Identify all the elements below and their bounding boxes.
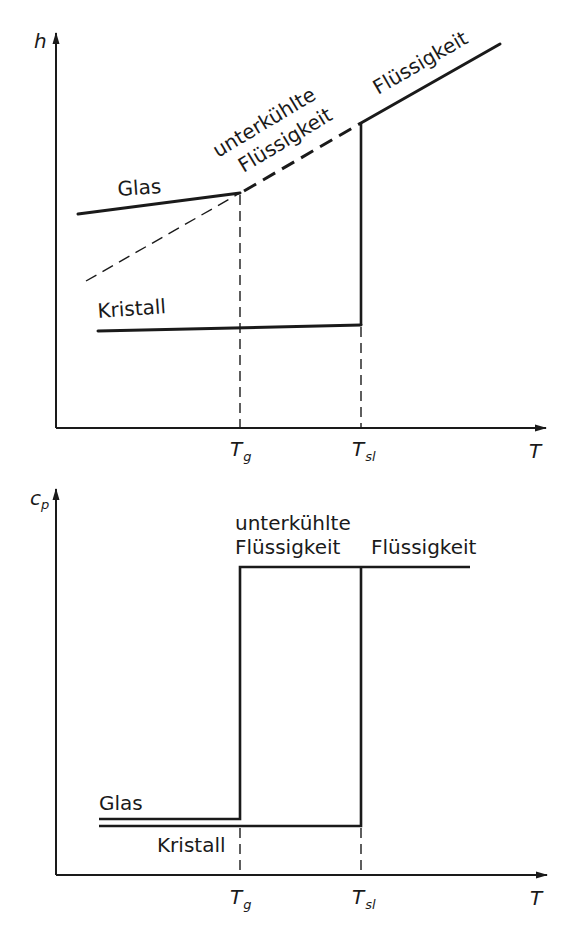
x-axis-label-t: T: [529, 439, 543, 463]
label-kristall: Kristall: [97, 294, 167, 323]
label-supercooled-line1-bottom: unterkühlte: [235, 511, 351, 535]
heat-capacity-chart: cp T Glas Kristall unterkühlte Flüssigke…: [30, 486, 547, 912]
extrapolation-line: [86, 193, 240, 281]
label-supercooled-line2-bottom: Flüssigkeit: [235, 535, 341, 559]
y-axis-label-cp: cp: [30, 486, 49, 512]
tick-tsl-bottom: Tsl: [352, 885, 376, 912]
kristall-curve: [98, 325, 361, 331]
x-axis-label-t-bottom: T: [530, 886, 544, 910]
kristall-cp-line: [99, 567, 361, 826]
enthalpy-chart: h T Glas Kristall unterkühlte Flüssigkei…: [34, 26, 546, 464]
glas-cp-line: [99, 567, 470, 819]
label-glas: Glas: [117, 174, 162, 201]
tick-tsl: Tsl: [352, 437, 376, 464]
label-kristall-bottom: Kristall: [157, 833, 226, 857]
label-glas-bottom: Glas: [99, 791, 143, 815]
y-axis-label-h: h: [34, 29, 47, 53]
tick-tg: Tg: [230, 437, 251, 464]
label-liquid-bottom: Flüssigkeit: [371, 535, 477, 559]
tick-tg-bottom: Tg: [230, 885, 251, 912]
label-supercooled-liquid: unterkühlte Flüssigkeit: [208, 80, 336, 184]
diagram-canvas: h T Glas Kristall unterkühlte Flüssigkei…: [0, 0, 576, 941]
